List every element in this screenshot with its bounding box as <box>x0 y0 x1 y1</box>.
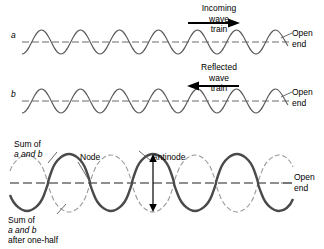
antinode-label: Antinode <box>152 152 186 163</box>
wave-diagram: a Incoming wave train Open end b Reflect… <box>0 0 324 249</box>
sum-after-label-line1: Sum of <box>8 215 35 226</box>
leader-open-end-reflected <box>281 92 292 97</box>
panel-reflected <box>22 82 292 114</box>
leader-open-end-incoming <box>281 33 292 38</box>
wave-label-a: a <box>11 30 16 41</box>
open-end-label-incoming: Open end <box>292 28 313 49</box>
sum-label-line1: Sum of <box>14 139 41 150</box>
incoming-direction-label: Incoming wave train <box>188 3 250 35</box>
node-label: Node <box>80 152 100 163</box>
wave-label-b: b <box>11 89 16 100</box>
open-end-label-superposition: Open end <box>294 172 315 193</box>
sum-after-label-line3: after one-half <box>8 235 58 246</box>
sum-label-line2: a and b <box>14 149 42 160</box>
open-end-label-reflected: Open end <box>292 87 313 108</box>
sum-after-label-line2: a and b <box>8 225 36 236</box>
reflected-direction-label: Reflected wave train <box>188 62 250 94</box>
panel-incoming <box>22 19 292 55</box>
wave-diagram-canvas <box>0 0 324 249</box>
leader-sum-after-label <box>57 204 66 214</box>
